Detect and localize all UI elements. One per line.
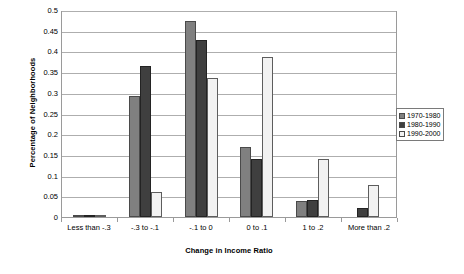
plot-area [61,11,397,218]
legend-label: 1990-2000 [407,129,440,138]
legend-swatch-icon [399,113,405,119]
x-axis-tick [285,218,286,222]
y-axis-tick-label: 0.35 [30,69,58,77]
bars-layer [62,12,396,217]
y-axis-tick-label: 0.3 [30,90,58,98]
bar [307,200,318,217]
bar [262,57,273,217]
legend-label: 1970-1980 [407,111,440,120]
bar [196,40,207,217]
legend-item: 1970-1980 [399,111,440,120]
bar-chart-figure: Percentage of Neighborhoods 00.050.10.15… [0,0,464,274]
bar [185,21,196,217]
y-axis-tick-label: 0.25 [30,111,58,119]
x-axis-tick-label: Less than -.3 [61,223,117,235]
bar-group [62,12,118,217]
bar-group [229,12,285,217]
x-axis-title: Change in Income Ratio [61,246,397,255]
bar [129,96,140,217]
y-axis-tick-label: 0 [30,214,58,222]
bar [318,159,329,217]
legend-label: 1980-1990 [407,120,440,129]
legend: 1970-19801980-19901990-2000 [396,108,444,141]
bar [357,208,368,217]
x-axis-tick-label: -.3 to -.1 [117,223,173,235]
legend-item: 1980-1990 [399,120,440,129]
x-axis-tick-labels: Less than -.3-.3 to -.1-.1 to 00 to .11 … [61,223,397,235]
x-axis-tick [173,218,174,222]
x-axis-tick-marks [61,218,397,222]
x-axis-tick [341,218,342,222]
x-axis-tick [61,218,62,222]
bar [73,215,84,217]
legend-swatch-icon [399,122,405,128]
legend-item: 1990-2000 [399,129,440,138]
legend-swatch-icon [399,131,405,137]
bar-group [340,12,396,217]
bar [95,215,106,217]
y-axis-tick-label: 0.45 [30,28,58,36]
bar [296,201,307,217]
x-axis-tick [229,218,230,222]
bar [240,147,251,217]
bar [84,215,95,217]
x-axis-tick-label: -.1 to 0 [173,223,229,235]
y-axis-tick-labels: 00.050.10.150.20.250.30.350.40.450.5 [30,11,58,218]
bar-group [173,12,229,217]
x-axis-tick [117,218,118,222]
x-axis-tick-label: 1 to .2 [285,223,341,235]
bar-group [285,12,341,217]
y-axis-tick-label: 0.1 [30,173,58,181]
y-axis-tick-label: 0.4 [30,48,58,56]
x-axis-tick-label: More than .2 [341,223,397,235]
y-axis-tick-label: 0.5 [30,7,58,15]
y-axis-tick-label: 0.05 [30,193,58,201]
y-axis-tick-label: 0.2 [30,131,58,139]
x-axis-tick [397,218,398,222]
bar [140,66,151,217]
x-axis-tick-label: 0 to .1 [229,223,285,235]
bar [151,192,162,217]
bar [368,185,379,217]
bar-group [118,12,174,217]
y-axis-tick-label: 0.15 [30,152,58,160]
bar [207,78,218,217]
bar [251,159,262,217]
